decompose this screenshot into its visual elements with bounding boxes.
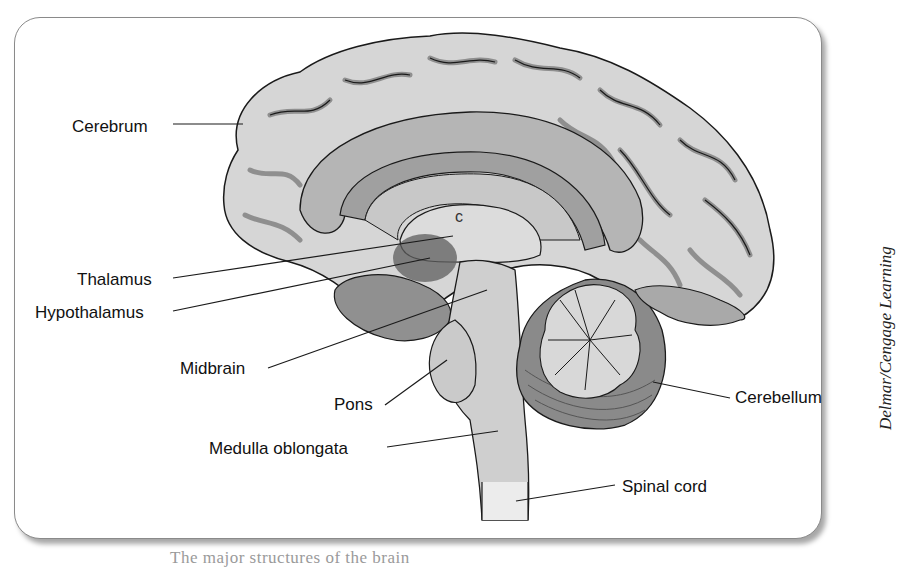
label-thalamus: Thalamus (77, 271, 152, 288)
label-cerebellum: Cerebellum (735, 389, 822, 406)
label-pons: Pons (334, 396, 373, 413)
label-spinal-cord: Spinal cord (622, 478, 707, 495)
leader-line-spinal-cord (516, 485, 615, 501)
leader-line-cerebellum (653, 382, 730, 398)
label-hypothalamus: Hypothalamus (35, 304, 144, 321)
label-medulla: Medulla oblongata (209, 440, 348, 457)
svg-text:c: c (455, 208, 463, 225)
label-cerebrum: Cerebrum (72, 118, 148, 135)
spinal-cord-shape (482, 482, 528, 520)
hypothalamus-shape (393, 234, 457, 282)
label-midbrain: Midbrain (180, 360, 245, 377)
credit-text: Delmar/Cengage Learning (876, 246, 896, 430)
caption-text: The major structures of the brain (170, 548, 410, 568)
